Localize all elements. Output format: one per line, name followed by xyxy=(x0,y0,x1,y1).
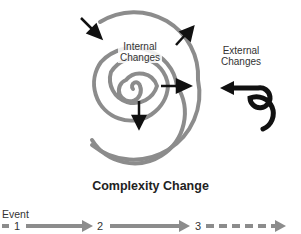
internal-changes-label: Internal Changes xyxy=(118,41,162,63)
timeline-dashed-arrow-icon xyxy=(275,220,286,232)
label-line: Changes xyxy=(118,52,162,63)
event-1: 1 xyxy=(14,220,20,232)
event-label: Event xyxy=(2,208,29,220)
down-arrow-icon xyxy=(133,116,145,128)
timeline xyxy=(2,220,286,232)
timeline-arrow-icon xyxy=(82,220,93,232)
event-3: 3 xyxy=(195,220,201,232)
event-2: 2 xyxy=(97,220,103,232)
external-arrow-icon xyxy=(220,81,234,95)
external-changes-label: External Changes xyxy=(217,45,265,67)
label-line: Internal xyxy=(118,41,162,52)
label-line: Changes xyxy=(217,56,265,67)
label-line: External xyxy=(217,45,265,56)
spiral-diagram xyxy=(0,0,301,234)
diagram-title: Complexity Change xyxy=(0,179,301,193)
external-spiral xyxy=(232,88,273,129)
timeline-arrow-icon xyxy=(179,220,190,232)
right-arrow-icon xyxy=(177,80,190,92)
